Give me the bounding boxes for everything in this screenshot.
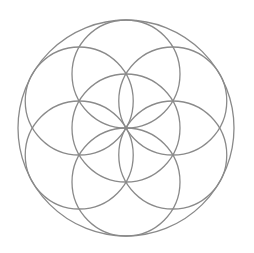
seed-of-life-diagram (0, 0, 254, 253)
circle-group (18, 20, 234, 236)
